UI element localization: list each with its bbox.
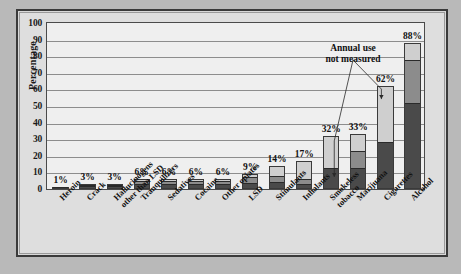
bar-group[interactable]: 88%	[404, 23, 420, 189]
bar-group[interactable]: 3%	[79, 23, 95, 189]
y-tick-label: 0	[12, 184, 42, 194]
bar-value-label: 33%	[349, 122, 368, 132]
y-tick-label: 70	[12, 68, 42, 78]
bar-group[interactable]: 6%	[215, 23, 231, 189]
gridline	[47, 140, 424, 141]
x-axis-labels: HeroinCrackHallucinogensother than LSDTr…	[46, 192, 425, 262]
gridline	[47, 74, 424, 75]
bar-value-label: 62%	[376, 74, 395, 84]
bar-group[interactable]: 14%	[269, 23, 285, 189]
bar-value-label: 17%	[295, 149, 314, 159]
bar-value-label: 1%	[53, 175, 67, 185]
y-tick-label: 30	[12, 134, 42, 144]
y-axis-ticks: 1009080706050403020100	[10, 22, 42, 190]
y-tick-label: 90	[12, 35, 42, 45]
y-tick-label: 100	[12, 18, 42, 28]
y-tick-label: 40	[12, 118, 42, 128]
bar-value-label: 3%	[80, 172, 94, 182]
bar-value-label: 6%	[216, 167, 230, 177]
annotation-line-1: Annual use	[300, 43, 406, 54]
bar-value-label: 3%	[108, 172, 122, 182]
bar-lifetime-use[interactable]	[404, 43, 420, 189]
gridline	[47, 107, 424, 108]
gridline	[47, 157, 424, 158]
bar-value-label: 88%	[403, 31, 422, 41]
annotation-line-2: not measured	[300, 54, 406, 65]
y-tick-label: 80	[12, 51, 42, 61]
y-tick-label: 20	[12, 151, 42, 161]
y-tick-label: 60	[12, 84, 42, 94]
bar-group[interactable]: 6%	[188, 23, 204, 189]
gridline	[47, 41, 424, 42]
annotation-annual-use-not-measured: Annual use not measured	[300, 43, 406, 65]
y-tick-label: 10	[12, 167, 42, 177]
bar-value-label: 14%	[268, 154, 287, 164]
bar-group[interactable]: 1%	[52, 23, 68, 189]
chart-figure: Percentage 1009080706050403020100 Twelft…	[0, 0, 461, 274]
y-tick-label: 50	[12, 101, 42, 111]
bar-value-label: 32%	[322, 124, 341, 134]
bar-group[interactable]: 3%	[107, 23, 123, 189]
gridline	[47, 173, 424, 174]
gridline	[47, 90, 424, 91]
